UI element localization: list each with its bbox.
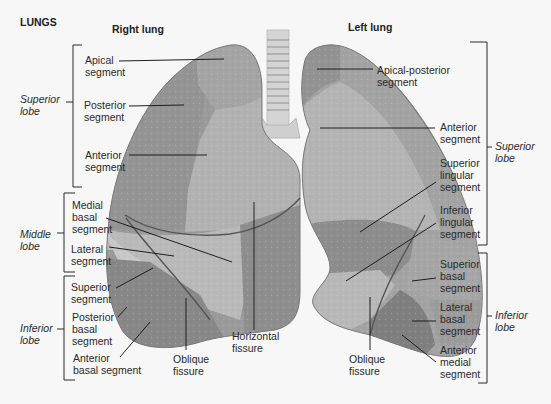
diagram-title: LUNGS bbox=[20, 16, 57, 28]
rl-superior-lobe-bracket bbox=[66, 45, 82, 187]
rl-anterior-basal-segment-label: Anterior basal segment bbox=[73, 352, 141, 376]
rl-middle-lobe-label: Middle lobe bbox=[20, 228, 54, 252]
rl-superior-lobe-label: Superior lobe bbox=[20, 93, 63, 117]
ll-oblique-fissure-label: Oblique fissure bbox=[349, 353, 388, 377]
rl-anterior-segment-label: Anterior segment bbox=[85, 149, 125, 173]
ll-inferior-lobe-label: Inferior lobe bbox=[495, 309, 531, 333]
ll-apical-posterior-segment-label: Apical-posterior segment bbox=[377, 64, 453, 88]
ll-anterior-medial-segment-label: Anterior medial segment bbox=[440, 344, 480, 380]
rl-horizontal-fissure-label: Horizontal fissure bbox=[232, 330, 282, 354]
rl-apical-segment-label: Apical segment bbox=[85, 54, 125, 78]
rl-superior-segment-label: Superior segment bbox=[71, 281, 114, 305]
rl-inferior-lobe-label: Inferior lobe bbox=[20, 322, 56, 346]
rl-oblique-fissure-label: Oblique fissure bbox=[173, 353, 212, 377]
ll-anterior-segment-label: Anterior segment bbox=[440, 121, 480, 145]
rl-posterior-segment-label: Posterior segment bbox=[84, 99, 129, 123]
rl-medial-basal-segment-label: Medial basal segment bbox=[72, 199, 112, 235]
left-lung-heading: Left lung bbox=[348, 21, 392, 33]
right-lung-heading: Right lung bbox=[112, 23, 164, 35]
trachea bbox=[256, 30, 300, 138]
ll-inferior-lingular-segment-label: Inferior lingular segment bbox=[440, 204, 480, 240]
rl-lateral-segment-label: Lateral segment bbox=[71, 243, 111, 267]
rl-posterior-basal-segment-label: Posterior basal segment bbox=[72, 311, 117, 347]
ll-superior-lingular-segment-label: Superior lingular segment bbox=[440, 157, 483, 193]
ll-superior-lobe-label: Superior lobe bbox=[495, 140, 538, 164]
lungs-diagram: LUNGS Right lung Left lung bbox=[0, 0, 551, 404]
